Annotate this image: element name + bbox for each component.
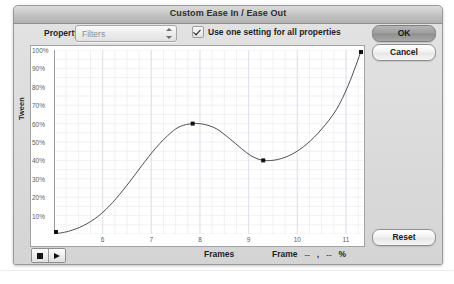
cancel-button[interactable]: Cancel	[372, 44, 436, 61]
ease-curve-line	[54, 50, 362, 234]
y-axis-tick-label: 10%	[32, 212, 54, 219]
frame-readout-comma: ,	[317, 249, 319, 259]
y-axis-ticks: 100%90%80%70%60%50%40%30%20%10%	[31, 46, 54, 246]
ease-curve-plot[interactable]	[54, 50, 363, 234]
x-axis-tick-label: 6	[101, 236, 105, 243]
y-axis-tick-label: 100%	[32, 47, 54, 54]
property-dropdown-value: Filters	[82, 29, 105, 39]
dialog-body: Property: Filters Use one setting for al…	[14, 24, 442, 264]
property-dropdown[interactable]: Filters	[75, 25, 177, 42]
y-axis-tick-label: 70%	[32, 102, 54, 109]
y-axis-tick-label: 20%	[32, 194, 54, 201]
x-axis-tick-label: 8	[198, 236, 202, 243]
stop-icon	[37, 253, 43, 259]
plot-area[interactable]	[54, 50, 363, 234]
use-one-setting-label: Use one setting for all properties	[208, 27, 341, 37]
x-axis-tick-label: 7	[150, 236, 154, 243]
ok-button[interactable]: OK	[372, 25, 436, 42]
frame-readout-label: Frame	[272, 249, 298, 259]
x-axis-title: Frames	[204, 249, 234, 259]
percent-symbol: %	[339, 249, 347, 259]
use-one-setting-checkbox[interactable]: Use one setting for all properties	[192, 26, 341, 38]
x-axis-tick-label: 9	[247, 236, 251, 243]
curve-control-point[interactable]	[261, 158, 265, 162]
y-axis-tick-label: 30%	[32, 175, 54, 182]
custom-ease-dialog: Custom Ease In / Ease Out Property: Filt…	[13, 5, 443, 265]
play-button[interactable]	[49, 249, 65, 262]
ease-curve-graph[interactable]: 100%90%80%70%60%50%40%30%20%10% 67891011	[30, 45, 365, 247]
reset-button[interactable]: Reset	[372, 229, 436, 246]
frame-readout-value[interactable]: --	[305, 250, 310, 259]
y-axis-tick-label: 90%	[32, 65, 54, 72]
curve-control-point[interactable]	[191, 122, 195, 126]
x-axis-ticks: 67891011	[54, 234, 363, 246]
stop-button[interactable]	[32, 249, 49, 262]
page-divider	[0, 270, 454, 271]
x-axis-tick-label: 11	[343, 236, 350, 243]
dialog-title: Custom Ease In / Ease Out	[14, 8, 442, 18]
curve-control-point[interactable]	[359, 50, 363, 54]
y-axis-tick-label: 40%	[32, 157, 54, 164]
checkmark-icon	[192, 26, 204, 38]
transport-controls	[31, 248, 66, 263]
y-axis-tick-label: 60%	[32, 120, 54, 127]
dialog-titlebar[interactable]: Custom Ease In / Ease Out	[14, 6, 442, 24]
y-axis-tick-label: 50%	[32, 139, 54, 146]
x-axis-tick-label: 10	[294, 236, 301, 243]
play-icon	[54, 253, 60, 259]
percent-readout-value[interactable]: --	[326, 250, 331, 259]
frame-readout: Frame -- , -- %	[272, 249, 346, 259]
y-axis-title: Tween	[17, 97, 26, 120]
updown-arrows-icon	[165, 28, 172, 39]
y-axis-tick-label: 80%	[32, 83, 54, 90]
